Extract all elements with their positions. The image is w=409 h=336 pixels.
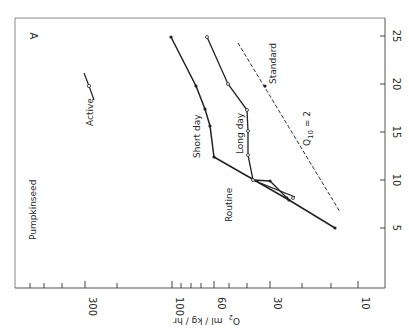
y-tick-label: 100: [174, 297, 185, 316]
y-tick-label: 10: [360, 297, 371, 310]
y-tick-label: 30: [272, 297, 283, 310]
x-tick-label: 10: [391, 174, 402, 187]
x-tick-label: 25: [391, 30, 402, 43]
short-day-label: Short day: [192, 114, 202, 158]
species-label: Pumpkinseed: [28, 180, 38, 240]
series-long-day: [206, 36, 296, 200]
x-tick-label: 20: [391, 78, 402, 91]
x-axis: 25 20 15 10 5: [380, 30, 402, 232]
chart-figure: 25 20 15 10 5 300 100 60 30 10 O2ml / kg…: [0, 0, 409, 336]
y-tick-label: 60: [216, 297, 227, 310]
standard-label: Standard: [268, 43, 278, 84]
q10-label: Q10 = 2: [302, 111, 315, 146]
y-tick-label: 300: [87, 297, 98, 316]
x-tick-label: 15: [391, 126, 402, 139]
routine-label: Routine: [224, 187, 234, 222]
panel-label: A: [28, 33, 39, 40]
active-label: Active: [85, 98, 95, 126]
x-tick-label: 5: [391, 225, 402, 231]
long-day-label: Long day: [235, 112, 245, 154]
series-active: [84, 73, 94, 100]
series-standard: [238, 43, 340, 212]
